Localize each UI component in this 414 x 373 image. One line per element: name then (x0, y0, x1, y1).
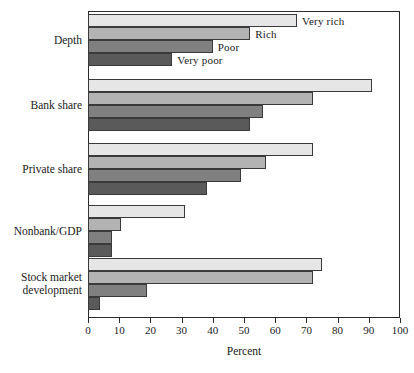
x-axis-tick (306, 318, 307, 323)
category-label: Stock market development (0, 271, 82, 297)
x-axis-tick (244, 318, 245, 323)
series-label-very-poor: Very poor (177, 54, 222, 66)
x-axis-tick (400, 318, 401, 323)
category-label: Nonbank/GDP (0, 225, 82, 238)
bar (88, 40, 213, 53)
bar (88, 205, 185, 218)
series-label-rich: Rich (255, 28, 277, 40)
bar (88, 79, 372, 92)
bar (88, 271, 313, 284)
x-axis-tick-label: 90 (354, 324, 384, 336)
x-axis-tick (182, 318, 183, 323)
x-axis-tick (119, 318, 120, 323)
x-axis-tick-label: 50 (229, 324, 259, 336)
category-label: Bank share (0, 99, 82, 112)
x-axis-tick-label: 40 (198, 324, 228, 336)
x-axis-tick-label: 10 (104, 324, 134, 336)
bar (88, 258, 322, 271)
bar (88, 143, 313, 156)
bar (88, 92, 313, 105)
x-axis-tick-label: 0 (73, 324, 103, 336)
bar (88, 244, 112, 257)
bar (88, 218, 121, 231)
x-axis-tick (275, 318, 276, 323)
bar-chart: DepthBank sharePrivate shareNonbank/GDPS… (0, 0, 414, 373)
bar (88, 182, 207, 195)
x-axis-tick-label: 100 (385, 324, 414, 336)
bar (88, 105, 263, 118)
x-axis-tick-label: 30 (167, 324, 197, 336)
bar (88, 14, 297, 27)
x-axis-tick-label: 20 (135, 324, 165, 336)
x-axis-tick (213, 318, 214, 323)
x-axis-tick (88, 318, 89, 323)
category-label: Depth (0, 34, 82, 47)
category-label: Private share (0, 163, 82, 176)
bar (88, 169, 241, 182)
x-axis-tick-label: 80 (323, 324, 353, 336)
x-axis-tick (338, 318, 339, 323)
x-axis-tick (150, 318, 151, 323)
x-axis-tick-label: 60 (260, 324, 290, 336)
bar (88, 118, 250, 131)
bar (88, 53, 172, 66)
bar (88, 231, 112, 244)
series-label-poor: Poor (218, 41, 240, 53)
bar (88, 156, 266, 169)
x-axis-tick-label: 70 (291, 324, 321, 336)
x-axis-title: Percent (88, 345, 400, 357)
bar (88, 284, 147, 297)
bar (88, 27, 250, 40)
x-axis-tick (369, 318, 370, 323)
series-label-very-rich: Very rich (302, 15, 344, 27)
bar (88, 297, 100, 310)
